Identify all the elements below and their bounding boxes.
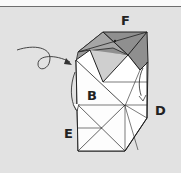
label-d: D [155,104,166,117]
label-b: B [87,89,97,102]
looping-arrow [17,47,70,69]
label-e: E [64,127,73,140]
origami-diagram [0,0,181,173]
label-f: F [121,14,130,27]
arrowhead-icon [64,58,72,65]
